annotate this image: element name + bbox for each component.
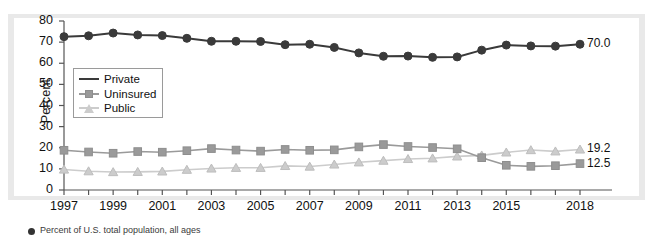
y-tick-label: 20 [27, 140, 53, 154]
x-tick-label: 2015 [481, 199, 531, 213]
y-tick-label: 50 [27, 76, 53, 90]
caption-bullet-icon [28, 228, 35, 235]
legend-label: Uninsured [100, 88, 156, 100]
x-tick-label: 1999 [88, 199, 138, 213]
y-tick-label: 80 [27, 13, 53, 27]
x-tick-label: 2013 [432, 199, 482, 213]
legend-item-private[interactable]: Private [78, 72, 157, 87]
x-tick-label: 2011 [383, 199, 433, 213]
x-tick-label: 2018 [555, 199, 605, 213]
chart-page: Percent 01020304050607080 19971999200120… [0, 0, 653, 236]
y-tick-label: 40 [27, 98, 53, 112]
square-marker-icon [78, 88, 100, 100]
y-tick-label: 0 [27, 182, 53, 196]
x-tick-label: 2005 [236, 199, 286, 213]
x-tick-label: 2007 [285, 199, 335, 213]
end-label-uninsured: 12.5 [587, 156, 610, 170]
triangle-marker-icon [78, 102, 100, 114]
y-tick-label: 10 [27, 161, 53, 175]
x-tick-label: 2009 [334, 199, 384, 213]
legend-item-uninsured[interactable]: Uninsured [78, 87, 157, 102]
figure-caption: Percent of U.S. total population, all ag… [0, 226, 653, 236]
legend-label: Private [100, 73, 140, 85]
legend-item-public[interactable]: Public [78, 101, 157, 116]
y-tick-label: 60 [27, 55, 53, 69]
circle-marker-icon [78, 73, 100, 85]
legend-label: Public [100, 102, 135, 114]
y-tick-label: 30 [27, 119, 53, 133]
x-tick-label: 1997 [39, 199, 89, 213]
end-label-public: 19.2 [587, 141, 610, 155]
x-tick-label: 2001 [137, 199, 187, 213]
x-tick-label: 2003 [186, 199, 236, 213]
chart-legend: PrivateUninsuredPublic [73, 68, 163, 118]
y-tick-label: 70 [27, 34, 53, 48]
caption-text: Percent of U.S. total population, all ag… [40, 226, 201, 235]
end-label-private: 70.0 [587, 36, 610, 50]
